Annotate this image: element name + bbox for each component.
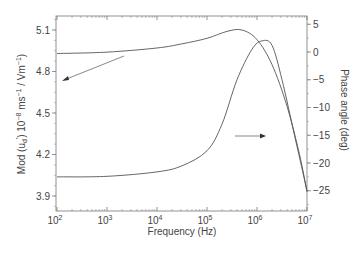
y-tick-label: 4.2 — [36, 149, 50, 160]
y-tick-label: 4.8 — [36, 66, 50, 77]
arrow-to-left-axis — [62, 56, 124, 81]
y2-tick-label: −25 — [313, 185, 330, 196]
x-axis-title: Frequency (Hz) — [148, 226, 217, 237]
y-tick-label: 4.5 — [36, 108, 50, 119]
chart: 102103104105106107 5.14.84.54.23.9 50−5−… — [0, 0, 357, 253]
x-tick-label: 102 — [47, 214, 62, 226]
y2-tick-label: −15 — [313, 130, 330, 141]
y2-tick-label: −10 — [313, 102, 330, 113]
arrow-to-right-axis — [235, 134, 266, 139]
y2-tick-label: 0 — [313, 47, 319, 58]
y-tick-label: 3.9 — [36, 191, 50, 202]
y-axis-left: 5.14.84.54.23.9 — [36, 20, 56, 207]
phase-curve — [57, 40, 307, 190]
x-tick-label: 107 — [297, 214, 312, 226]
plot-curves — [57, 29, 307, 191]
y2-axis-title: Phase angle (deg) — [339, 69, 350, 151]
x-tick-label: 106 — [247, 214, 262, 226]
x-tick-label: 105 — [197, 214, 212, 226]
y2-tick-label: −5 — [313, 74, 325, 85]
y-tick-label: 5.1 — [36, 25, 50, 36]
plot-frame — [56, 16, 307, 211]
y2-tick-label: 5 — [313, 19, 319, 30]
mod-curve — [57, 29, 307, 191]
y2-tick-label: −20 — [313, 158, 330, 169]
y-axis-right: 50−5−10−15−20−25 — [307, 19, 330, 205]
x-tick-label: 104 — [147, 214, 162, 226]
x-tick-label: 103 — [97, 214, 112, 226]
y-axis-title: Mod (ud') 10−8 ms−1 / Vm−1) — [15, 54, 28, 174]
